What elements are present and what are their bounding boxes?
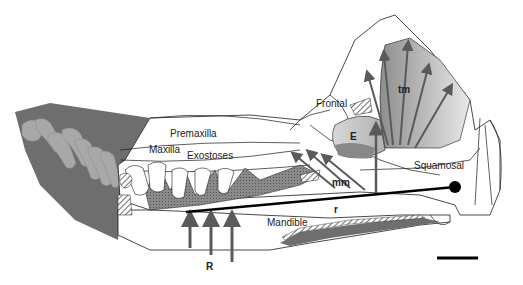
label-squamosal: Squamosal: [414, 160, 464, 171]
jaw-joint-pivot: [449, 181, 461, 193]
label-maxilla: Maxilla: [149, 144, 181, 155]
skull-diagram: Premaxilla Maxilla Exostoses Frontal tm …: [0, 0, 523, 285]
label-frontal: Frontal: [316, 98, 347, 109]
label-mandible: Mandible: [267, 217, 308, 228]
label-e: E: [350, 131, 357, 142]
label-r: r: [334, 204, 338, 215]
label-R: R: [206, 261, 214, 272]
label-exostoses: Exostoses: [187, 150, 233, 161]
label-tm: tm: [398, 84, 410, 95]
label-mm: mm: [332, 177, 350, 188]
label-premaxilla: Premaxilla: [170, 128, 217, 139]
